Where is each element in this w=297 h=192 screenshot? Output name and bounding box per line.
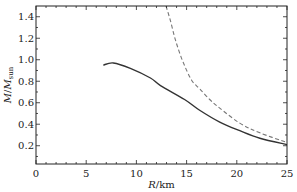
series-dashed-line <box>166 6 287 143</box>
x-axis-label: R/km <box>147 179 175 190</box>
y-tick-label: 0.8 <box>18 76 34 87</box>
y-tick-label: 0.2 <box>18 140 34 151</box>
y-tick-label: 0.4 <box>18 119 34 130</box>
chart: 05101520250.20.40.60.81.01.21.4R/kmM/Msu… <box>0 0 297 192</box>
y-tick-label: 1.2 <box>18 33 34 44</box>
x-tick-label: 20 <box>230 168 243 179</box>
y-axis-label: M/Msun <box>2 66 15 104</box>
y-tick-label: 1.4 <box>18 11 34 22</box>
y-tick-label: 1.0 <box>18 54 34 65</box>
x-tick-label: 5 <box>83 168 89 179</box>
x-tick-label: 15 <box>180 168 193 179</box>
x-tick-label: 10 <box>130 168 143 179</box>
plot-frame <box>36 6 287 164</box>
x-tick-label: 0 <box>33 168 39 179</box>
x-tick-label: 25 <box>281 168 294 179</box>
y-tick-label: 0.6 <box>18 97 34 108</box>
